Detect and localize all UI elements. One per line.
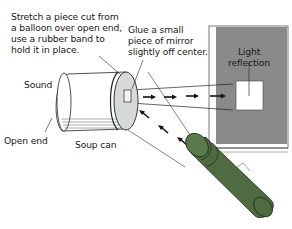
soup-can [56, 72, 138, 131]
diagram-canvas: Stretch a piece cut from a balloon over … [0, 0, 292, 229]
mirror [124, 90, 131, 102]
light-reflection-label: Light reflection [226, 46, 272, 68]
open-end-label: Open end [4, 135, 48, 146]
balloon-instruction-label: Stretch a piece cut from a balloon over … [11, 11, 122, 55]
mirror-instruction-label: Glue a small piece of mirror slightly of… [128, 24, 208, 57]
sound-label: Sound [24, 79, 52, 90]
soup-can-label: Soup can [75, 139, 116, 150]
incident-arrows [139, 110, 187, 145]
